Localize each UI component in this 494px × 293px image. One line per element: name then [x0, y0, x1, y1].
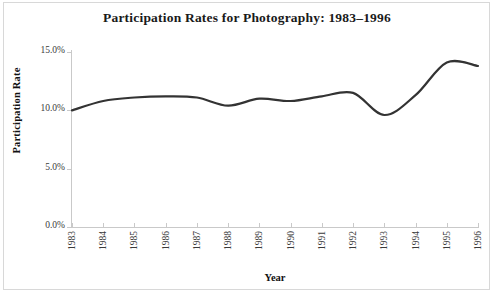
x-tick-label: 1992: [347, 231, 359, 271]
x-tick-label: 1994: [410, 231, 422, 271]
x-tick-label: 1986: [160, 231, 172, 271]
x-tick-label: 1987: [191, 231, 203, 271]
participation-rate-line: [72, 61, 478, 115]
x-tick-label: 1993: [378, 231, 390, 271]
x-tick-label: 1988: [222, 231, 234, 271]
y-tick-label: 0.0%: [0, 220, 65, 230]
chart-figure: Participation Rates for Photography: 198…: [0, 0, 494, 293]
x-tick-label: 1996: [472, 231, 484, 271]
x-tick-mark: [478, 223, 479, 228]
x-axis-line: [71, 227, 479, 228]
x-axis-title: Year: [72, 272, 478, 283]
x-tick-label: 1991: [316, 231, 328, 271]
x-tick-label: 1990: [285, 231, 297, 271]
x-tick-label: 1985: [128, 231, 140, 271]
x-tick-label: 1984: [97, 231, 109, 271]
x-tick-label: 1995: [441, 231, 453, 271]
plot-area: [72, 52, 478, 227]
x-tick-label: 1989: [253, 231, 265, 271]
chart-title: Participation Rates for Photography: 198…: [0, 10, 494, 26]
line-series-svg: [72, 52, 478, 227]
y-axis-title: Participation Rate: [11, 51, 22, 171]
x-tick-label: 1983: [66, 231, 78, 271]
